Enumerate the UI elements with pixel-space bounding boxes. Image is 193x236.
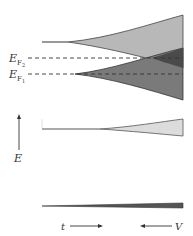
arrow-up-icon [17,114,21,119]
volume-axis: V [140,221,184,232]
band-diagram: E F 2 E F 1 E t V [0,0,193,236]
energy-axis: E [13,114,22,165]
svg-text:E: E [8,52,17,65]
svg-text:E: E [8,68,17,81]
arrow-left-icon [140,224,145,228]
energy-axis-label: E [13,152,22,165]
svg-text:2: 2 [22,62,25,68]
fermi-level-1-label: E F 1 [8,68,25,84]
band-4 [42,203,183,208]
band-3 [42,119,183,136]
fermi-level-2-label: E F 2 [8,52,25,68]
arrow-right-icon [98,224,103,228]
time-axis-label: t [61,221,66,232]
volume-axis-label: V [175,221,184,232]
time-axis: t [61,221,103,232]
svg-text:1: 1 [22,78,25,84]
